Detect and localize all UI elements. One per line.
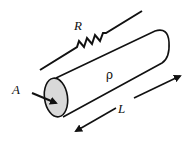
resistor-label: R xyxy=(73,18,82,33)
area-label: A xyxy=(11,82,20,97)
resistance-diagram: R ρ A L xyxy=(0,0,194,141)
resistivity-label: ρ xyxy=(106,68,113,82)
length-arrow-upper-icon xyxy=(134,76,180,98)
length-label: L xyxy=(117,101,125,116)
diagram-canvas: R ρ A L xyxy=(0,0,194,141)
length-arrow-lower-icon xyxy=(76,108,116,131)
